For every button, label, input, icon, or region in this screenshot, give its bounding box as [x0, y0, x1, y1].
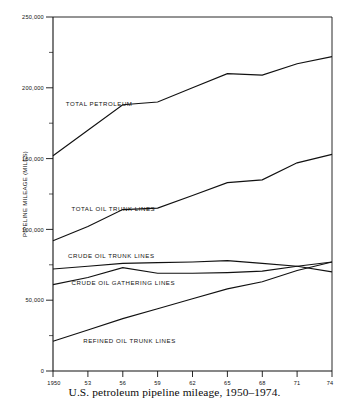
y-tick-label-250000: 250,000: [22, 14, 44, 20]
plot-frame: [53, 17, 332, 371]
y-axis-minor-ticks: [49, 52, 53, 335]
series-label-total-petroleum: TOTAL PETROLEUM: [66, 100, 133, 107]
y-tick-label-200000: 200,000: [22, 85, 44, 91]
figure-caption: U.S. petroleum pipeline mileage, 1950–19…: [0, 386, 349, 398]
series-line-crude-oil-trunk-lines: [53, 261, 332, 272]
y-axis-title: PIPELINE MILEAGE (MILES): [22, 151, 28, 237]
x-axis-ticks: [53, 371, 332, 377]
y-tick-label-50000: 50,000: [25, 297, 44, 303]
series-label-crude-oil-trunk-lines: CRUDE OIL TRUNK LINES: [68, 252, 154, 259]
series-label-total-oil-trunk-lines: TOTAL OIL TRUNK LINES: [72, 205, 156, 212]
series-line-total-oil-trunk-lines: [53, 154, 332, 240]
figure-container: 0 50,000 100,000 150,000 200,000 250,000…: [0, 0, 349, 413]
series-label-refined-oil-trunk-lines: REFINED OIL TRUNK LINES: [83, 337, 176, 344]
y-tick-label-0: 0: [41, 368, 44, 374]
petroleum-pipeline-line-chart: 0 50,000 100,000 150,000 200,000 250,000…: [0, 0, 349, 413]
series-label-crude-oil-gathering-lines: CRUDE OIL GATHERING LINES: [72, 279, 175, 286]
